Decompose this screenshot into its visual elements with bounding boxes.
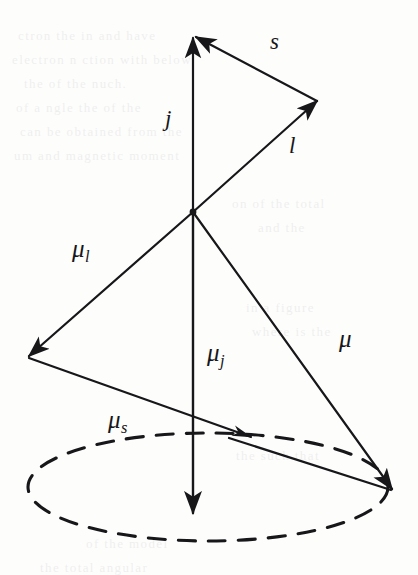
vector-arrows-group	[29, 37, 392, 513]
precession-orbit-group	[28, 433, 388, 541]
label-base: μ	[207, 339, 220, 366]
vector-arrow-mu-s-to-mu	[229, 438, 391, 490]
label-base: μ	[108, 406, 121, 433]
label-base: j	[165, 106, 171, 131]
vector-arrow-mu-s	[29, 358, 251, 437]
vector-label-mu-j: μj	[207, 340, 225, 369]
vector-label-j: j	[165, 107, 171, 130]
vector-arrow-l	[193, 101, 317, 212]
vector-diagram-canvas	[0, 0, 418, 575]
vector-arrow-mu-l	[29, 212, 193, 356]
vector-label-mu-s: μs	[108, 407, 127, 436]
label-subscript: j	[220, 351, 225, 370]
vector-label-mu-l: μl	[72, 236, 90, 265]
label-subscript: s	[121, 418, 127, 437]
vector-label-s: s	[270, 30, 279, 53]
vector-label-mu: μ	[339, 326, 352, 351]
label-base: l	[289, 133, 295, 158]
vector-arrow-s	[196, 37, 317, 101]
label-base: μ	[339, 325, 352, 352]
label-base: μ	[72, 235, 85, 262]
physics-vector-diagram: ctron the in and haveelectron n ction wi…	[0, 0, 418, 575]
origin-dot	[190, 209, 197, 216]
label-subscript: l	[85, 247, 90, 266]
precession-ellipse	[28, 433, 388, 541]
label-base: s	[270, 29, 279, 54]
vector-label-l: l	[289, 134, 295, 157]
vector-origin-point	[190, 209, 197, 216]
